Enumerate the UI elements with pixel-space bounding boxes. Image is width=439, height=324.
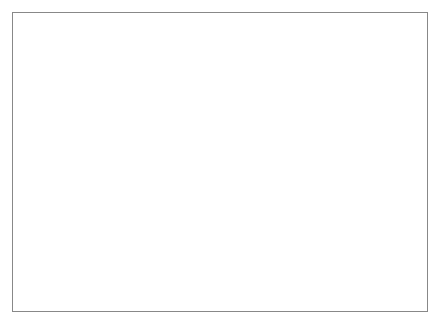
control-chart (0, 0, 439, 324)
